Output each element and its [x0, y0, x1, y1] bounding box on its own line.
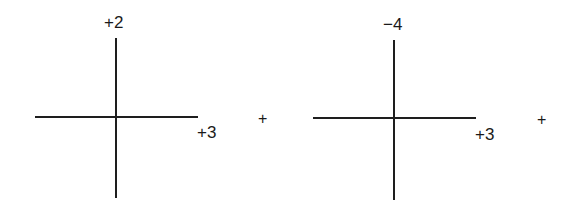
- plus-operator: +: [258, 111, 267, 127]
- horizontal-axis-label: +3: [475, 126, 494, 143]
- vertical-axis-label: −4: [383, 16, 402, 33]
- vertical-axis-label: +2: [104, 14, 123, 31]
- plus-operator: +: [537, 112, 546, 128]
- horizontal-axis: [313, 117, 476, 119]
- horizontal-axis: [35, 116, 198, 118]
- vertical-axis: [115, 38, 117, 198]
- vertical-axis: [393, 40, 395, 200]
- horizontal-axis-label: +3: [197, 124, 216, 141]
